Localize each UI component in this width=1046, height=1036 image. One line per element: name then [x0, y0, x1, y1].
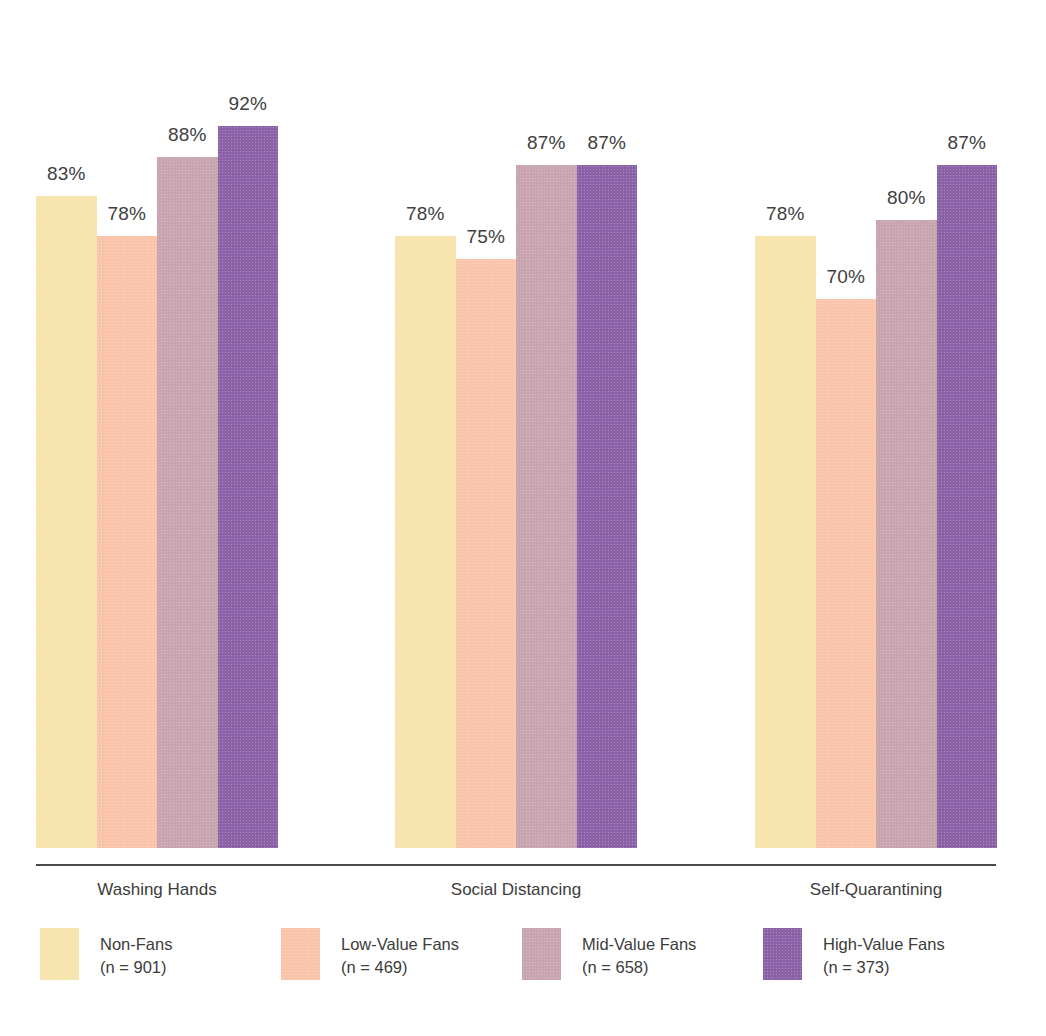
category-label: Social Distancing: [451, 880, 581, 900]
bar: 92%: [218, 126, 279, 848]
bar-column: 75%: [456, 18, 517, 848]
bar-value-label: 87%: [948, 132, 986, 154]
bar-value-label: 83%: [47, 163, 85, 185]
bar: 87%: [516, 165, 577, 848]
bar-column: 87%: [577, 18, 638, 848]
legend-series-name: Mid-Value Fans: [582, 933, 696, 956]
bar-group: 83%78%88%92%: [36, 18, 278, 848]
bar-column: 92%: [218, 18, 279, 848]
legend-series-name: Non-Fans: [100, 933, 172, 956]
chart-legend: Non-Fans(n = 901)Low-Value Fans(n = 469)…: [40, 928, 1006, 980]
bar-value-label: 78%: [406, 203, 444, 225]
x-axis-baseline: [36, 864, 996, 866]
bar: 87%: [577, 165, 638, 848]
category-label: Self-Quarantining: [810, 880, 942, 900]
legend-sample-size: (n = 901): [100, 956, 172, 979]
bar-column: 78%: [97, 18, 158, 848]
bar: 78%: [755, 236, 816, 848]
bar-group: 78%70%80%87%: [755, 18, 997, 848]
legend-item[interactable]: Non-Fans(n = 901): [40, 928, 281, 980]
bar-value-label: 87%: [527, 132, 565, 154]
bar-value-label: 78%: [108, 203, 146, 225]
bar-column: 83%: [36, 18, 97, 848]
bar: 75%: [456, 259, 517, 848]
legend-swatch: [763, 928, 802, 980]
bar-value-label: 70%: [827, 266, 865, 288]
bar: 70%: [816, 299, 877, 849]
bar-value-label: 88%: [168, 124, 206, 146]
bar-column: 88%: [157, 18, 218, 848]
bar-column: 87%: [937, 18, 998, 848]
legend-series-name: High-Value Fans: [823, 933, 945, 956]
legend-swatch: [281, 928, 320, 980]
bar-column: 78%: [755, 18, 816, 848]
bar: 78%: [395, 236, 456, 848]
legend-sample-size: (n = 469): [341, 956, 459, 979]
bar: 80%: [876, 220, 937, 848]
bar-value-label: 92%: [229, 93, 267, 115]
bar-column: 70%: [816, 18, 877, 848]
bar-column: 87%: [516, 18, 577, 848]
bar-group: 78%75%87%87%: [395, 18, 637, 848]
bar-value-label: 87%: [588, 132, 626, 154]
plot-area: 83%78%88%92%78%75%87%87%78%70%80%87%: [0, 0, 1046, 866]
category-label: Washing Hands: [97, 880, 216, 900]
legend-item[interactable]: High-Value Fans(n = 373): [763, 928, 1004, 980]
bar: 87%: [937, 165, 998, 848]
bar-column: 80%: [876, 18, 937, 848]
legend-sample-size: (n = 658): [582, 956, 696, 979]
legend-text: Low-Value Fans(n = 469): [341, 928, 459, 979]
bar-value-label: 78%: [766, 203, 804, 225]
legend-item[interactable]: Mid-Value Fans(n = 658): [522, 928, 763, 980]
legend-item[interactable]: Low-Value Fans(n = 469): [281, 928, 522, 980]
bar-value-label: 75%: [467, 226, 505, 248]
grouped-bar-chart: 83%78%88%92%78%75%87%87%78%70%80%87% Was…: [0, 0, 1046, 1036]
legend-series-name: Low-Value Fans: [341, 933, 459, 956]
bar-column: 78%: [395, 18, 456, 848]
bar: 83%: [36, 196, 97, 848]
bar: 78%: [97, 236, 158, 848]
legend-text: Mid-Value Fans(n = 658): [582, 928, 696, 979]
legend-text: High-Value Fans(n = 373): [823, 928, 945, 979]
legend-swatch: [40, 928, 79, 980]
bar-value-label: 80%: [887, 187, 925, 209]
legend-swatch: [522, 928, 561, 980]
legend-text: Non-Fans(n = 901): [100, 928, 172, 979]
bar: 88%: [157, 157, 218, 848]
legend-sample-size: (n = 373): [823, 956, 945, 979]
